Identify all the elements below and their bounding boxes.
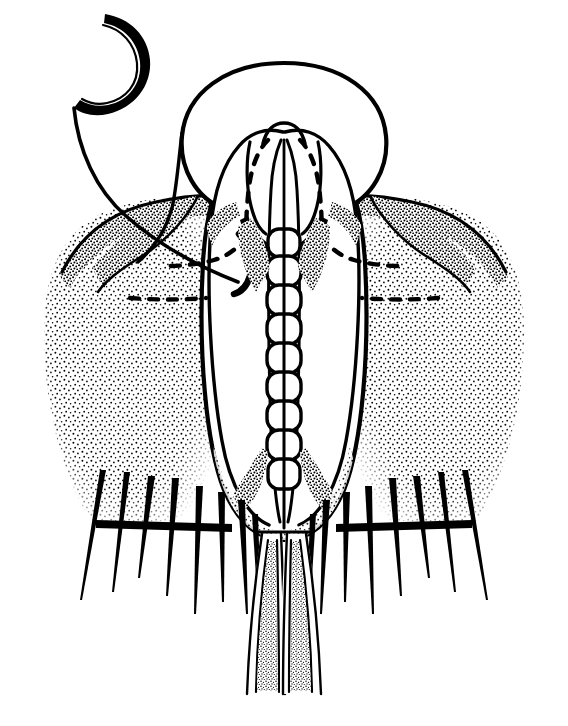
cercus-right [280, 534, 322, 694]
hook-inner-edge [82, 25, 137, 104]
figure-root: Male terminalia, ventral view [0, 0, 568, 726]
entomology-illustration [0, 0, 568, 726]
